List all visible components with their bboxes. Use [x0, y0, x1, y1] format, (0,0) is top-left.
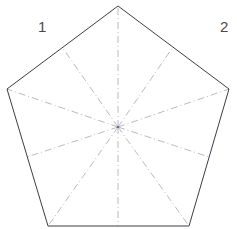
apothem-left-edge	[27, 127, 118, 157]
apothem-upper-right-edge	[118, 47, 173, 127]
apothem-upper-left-edge	[62, 47, 118, 127]
label-2: 2	[220, 19, 228, 34]
pentagon-figure	[0, 0, 237, 229]
pentagon-diagram: 1 2	[0, 0, 237, 229]
radius-to-upper-left	[7, 89, 118, 127]
radius-to-upper-right	[118, 89, 229, 127]
radius-to-lower-left	[48, 127, 118, 226]
radius-to-lower-right	[118, 127, 189, 226]
apothems-group	[27, 47, 209, 226]
label-1: 1	[38, 19, 46, 34]
centroid-point	[117, 126, 119, 128]
apothem-right-edge	[118, 127, 209, 157]
